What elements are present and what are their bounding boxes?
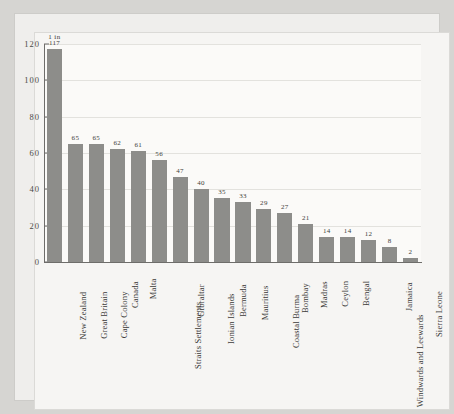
y-tick-label: 80 <box>30 112 41 122</box>
bar-column: 56 <box>152 44 167 262</box>
y-tick-label: 120 <box>24 39 40 49</box>
bar <box>68 144 83 262</box>
x-axis-label: Mauritius <box>260 285 270 320</box>
bar-value-label: 27 <box>281 203 289 211</box>
bar-value-label: 29 <box>260 199 268 207</box>
x-axis-label: Sierra Leone <box>434 291 444 337</box>
bar <box>235 202 250 262</box>
x-axis-label: Bombay <box>300 283 310 313</box>
x-axis-label: Cape Colony <box>120 291 130 338</box>
bar <box>47 49 62 262</box>
bar-column: 8 <box>382 44 397 262</box>
x-axis-labels: New ZealandGreat BritainCape ColonyCanad… <box>44 266 421 376</box>
bar <box>214 198 229 262</box>
x-axis-label: Canada <box>131 281 141 308</box>
bar-column: 65 <box>68 44 83 262</box>
x-axis-label: Ionian Islands <box>226 293 236 344</box>
bar-column: 61 <box>131 44 146 262</box>
bar <box>110 149 125 262</box>
x-axis-label: New Zealand <box>78 292 88 340</box>
x-axis-label: Great Britain <box>99 292 109 339</box>
x-axis-line <box>44 262 422 263</box>
bar-column: 2 <box>403 44 418 262</box>
bar-chart: 020406080100120 117656562615647403533292… <box>0 0 454 414</box>
x-axis-label: Bermuda <box>238 284 248 317</box>
bar-value-label: 2 <box>409 248 413 256</box>
bar-value-label: 61 <box>134 141 142 149</box>
x-axis-label: Jamaica <box>404 282 414 311</box>
bar <box>256 209 271 262</box>
bar-column: 35 <box>214 44 229 262</box>
bar-value-label: 35 <box>218 188 226 196</box>
bar-column: 21 <box>298 44 313 262</box>
y-tick-label: 100 <box>24 75 40 85</box>
x-axis-label: Madras <box>319 281 329 308</box>
bar-column: 33 <box>235 44 250 262</box>
bar-value-label: 14 <box>344 227 352 235</box>
y-tick-label: 60 <box>30 148 41 158</box>
bar-value-label: 62 <box>113 139 121 147</box>
bar-value-label: 65 <box>72 134 80 142</box>
bar <box>403 258 418 262</box>
bar-column: 62 <box>110 44 125 262</box>
bar <box>319 237 334 262</box>
bar-column: 27 <box>277 44 292 262</box>
bar-column: 12 <box>361 44 376 262</box>
bar-value-label: 12 <box>365 230 373 238</box>
bar-column: 47 <box>173 44 188 262</box>
x-axis-label: Bengal <box>360 281 370 306</box>
bar <box>382 247 397 262</box>
bar <box>340 237 355 262</box>
bar-column: 117 <box>47 44 62 262</box>
bar-value-label: 33 <box>239 192 247 200</box>
y-tick-label: 40 <box>30 184 41 194</box>
bar <box>277 213 292 262</box>
y-tick-label: 20 <box>30 221 41 231</box>
bar-value-label: 14 <box>323 227 331 235</box>
bar-column: 40 <box>194 44 209 262</box>
bar-column: 14 <box>319 44 334 262</box>
bar <box>131 151 146 262</box>
bar-value-label: 8 <box>388 237 392 245</box>
bar-value-label: 56 <box>155 150 163 158</box>
x-axis-label: Gibraltar <box>196 284 206 316</box>
bar <box>89 144 104 262</box>
y-tick-label: 0 <box>35 257 40 267</box>
x-axis-label: Windwards and Leewards <box>415 314 425 407</box>
bar <box>361 240 376 262</box>
bar <box>194 189 209 262</box>
bar <box>152 160 167 262</box>
bar-series: 11765656261564740353329272114141282 <box>44 44 421 262</box>
bar <box>173 177 188 262</box>
bar-value-label: 21 <box>302 214 310 222</box>
bar-value-label: 40 <box>197 179 205 187</box>
bar-column: 14 <box>340 44 355 262</box>
x-axis-label: Ceylon <box>340 281 350 307</box>
top-annotation: 1 in <box>48 33 60 41</box>
bar-value-label: 65 <box>93 134 101 142</box>
bar-value-label: 47 <box>176 167 184 175</box>
x-axis-label: Malta <box>149 278 159 299</box>
bar-column: 65 <box>89 44 104 262</box>
bar-column: 29 <box>256 44 271 262</box>
bar <box>298 224 313 262</box>
scanned-plate-background: 020406080100120 117656562615647403533292… <box>0 0 454 414</box>
